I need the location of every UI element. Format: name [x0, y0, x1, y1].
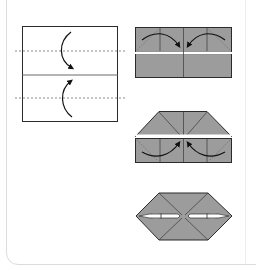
- origami-diagram: [0, 0, 256, 271]
- step-4: [136, 193, 232, 240]
- paper-square: [23, 27, 118, 122]
- step-3: [136, 112, 232, 163]
- step-1: [15, 27, 126, 122]
- center-gap: [136, 135, 231, 139]
- slit-right: [188, 214, 229, 219]
- step-2: [136, 28, 232, 78]
- slit-left: [139, 214, 180, 219]
